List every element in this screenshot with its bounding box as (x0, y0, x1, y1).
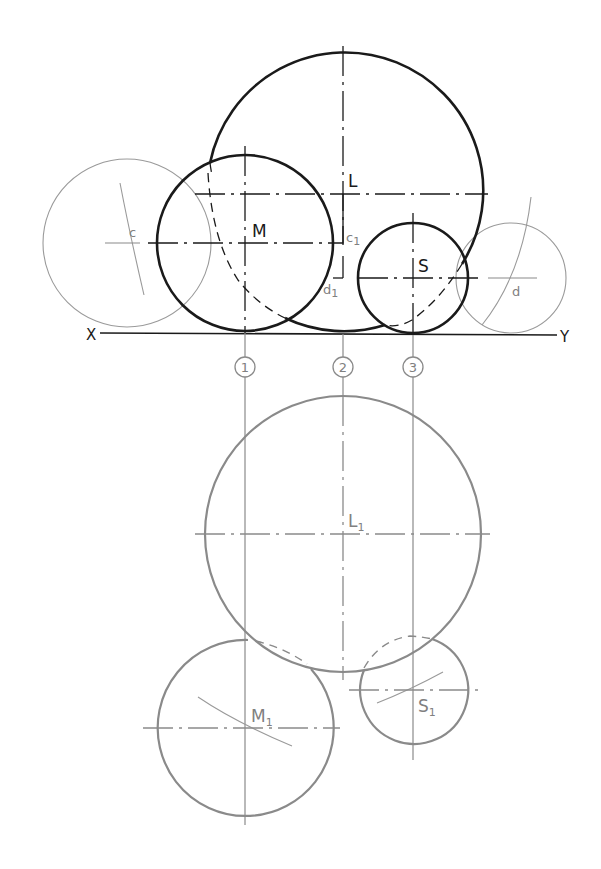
elevation-view: c d L M (43, 46, 570, 346)
marker-1: 1 (235, 357, 255, 377)
label-M1: M1 (251, 706, 273, 729)
plan-view: L1 M1 S1 (143, 396, 490, 816)
large-sphere-plan: L1 (195, 396, 490, 680)
large-sphere-elevation: L (195, 46, 488, 331)
label-c: c (129, 225, 136, 240)
label-S: S (418, 256, 429, 276)
label-L1: L1 (348, 511, 364, 534)
small-sphere-elevation: S (358, 213, 482, 333)
label-S1: S1 (418, 696, 436, 719)
label-X: X (86, 326, 96, 344)
label-Y: Y (559, 328, 570, 346)
three-spheres-projection-drawing: c d L M (0, 0, 601, 869)
svg-text:3: 3 (409, 360, 417, 375)
marker-3: 3 (403, 357, 423, 377)
construction-circle-d: d (456, 197, 566, 333)
construction-points: c1 d1 (323, 194, 360, 300)
label-L: L (348, 171, 358, 191)
label-d1: d1 (323, 282, 338, 300)
medium-sphere-plan: M1 (143, 640, 340, 816)
label-d: d (512, 284, 520, 299)
label-M: M (252, 221, 267, 241)
ground-line-xy: X Y (86, 326, 570, 346)
svg-text:2: 2 (339, 360, 347, 375)
label-c1: c1 (346, 230, 360, 248)
marker-2: 2 (333, 357, 353, 377)
svg-text:1: 1 (241, 360, 249, 375)
